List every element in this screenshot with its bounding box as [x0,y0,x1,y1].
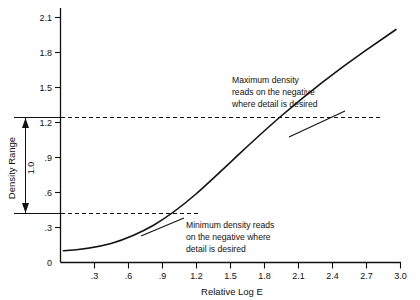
y-axis-title: Density Range [6,137,17,199]
maximum-density-annotation-line-1: Maximum density [232,75,300,85]
x-tick-label-0.6: .6 [125,271,133,281]
y-tick-label-0.6: .6 [44,188,52,198]
characteristic-curve-chart: 2.1 1.8 1.5 1.2 .9 .6 .3 0 .3 .6 .9 [0,0,420,300]
minimum-density-annotation-line-3: detail is desired [186,244,246,254]
maximum-density-annotation-line-3: where detail is desired [231,99,318,109]
y-tick-label-0: 0 [47,258,52,268]
maximum-density-annotation-line-2: reads on the negative [232,87,315,97]
x-axis-title: Relative Log E [201,286,263,297]
y-tick-label-2.1: 2.1 [39,13,52,23]
bracket-arrow-up [22,118,29,128]
chart-root: 2.1 1.8 1.5 1.2 .9 .6 .3 0 .3 .6 .9 [0,0,420,300]
minimum-density-annotation-line-2: on the negative where [186,232,271,242]
y-tick-label-0.9: .9 [44,153,52,163]
maximum-density-annotation: Maximum density reads on the negative wh… [231,75,318,109]
density-curve [64,30,397,251]
y-tick-label-0.3: .3 [44,223,52,233]
x-axis-ticks [95,263,401,269]
bracket-arrow-down [22,203,29,213]
y-tick-label-1.8: 1.8 [39,48,52,58]
x-tick-label-2.7: 2.7 [360,271,373,281]
y-axis-ticks [55,18,61,228]
x-tick-label-1.2: 1.2 [190,271,203,281]
minimum-density-annotation-line-1: Minimum density reads [186,220,274,230]
y-tick-label-1.5: 1.5 [39,83,52,93]
x-tick-label-0.3: .3 [91,271,99,281]
x-tick-label-2.4: 2.4 [326,271,339,281]
x-tick-label-0.9: .9 [159,271,167,281]
density-range-bracket: 1.0 Density Range [6,118,61,214]
density-range-value-label: 1.0 [26,162,36,175]
minimum-density-annotation: Minimum density reads on the negative wh… [186,220,274,254]
x-tick-label-2.1: 2.1 [292,271,305,281]
reference-lines [40,118,383,214]
maximum-density-leader-line [289,111,345,137]
x-axis-tick-labels: .3 .6 .9 1.2 1.5 1.8 2.1 2.4 2.7 3.0 [91,271,407,281]
y-axis-tick-labels: 2.1 1.8 1.5 1.2 .9 .6 .3 0 [39,13,52,268]
annotation-leaders [141,111,345,236]
x-tick-label-1.8: 1.8 [258,271,271,281]
y-tick-label-1.2: 1.2 [39,118,52,128]
x-tick-label-3.0: 3.0 [394,271,407,281]
x-tick-label-1.5: 1.5 [224,271,237,281]
minimum-density-leader-line [141,218,184,236]
